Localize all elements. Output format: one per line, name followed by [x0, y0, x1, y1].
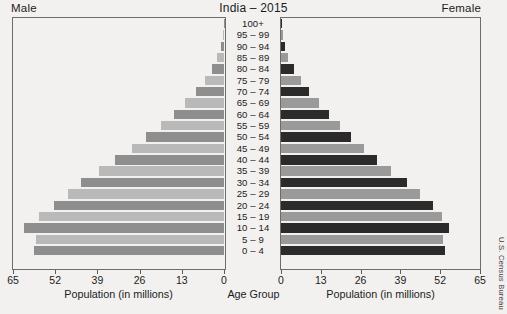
axis-tick-label: 39 [395, 274, 407, 286]
age-group-label: 0 – 4 [226, 245, 280, 256]
age-group-label: 50 – 54 [226, 131, 280, 142]
bar-row-male [13, 97, 224, 108]
bar-male [217, 53, 224, 62]
bar-male [34, 246, 224, 255]
age-group-label: 75 – 79 [226, 75, 280, 86]
bar-male [185, 98, 224, 107]
age-group-label: 80 – 84 [226, 63, 280, 74]
age-group-label: 5 – 9 [226, 234, 280, 245]
bar-row-male [13, 154, 224, 165]
bar-female [281, 87, 309, 96]
bar-row-male [13, 86, 224, 97]
bar-male [81, 178, 224, 187]
bar-row-male [13, 109, 224, 120]
bar-row-male [13, 18, 224, 29]
age-group-label: 65 – 69 [226, 97, 280, 108]
bar-male [221, 42, 224, 51]
bar-female [281, 98, 319, 107]
bar-row-female [281, 222, 480, 233]
axis-tick-label: 13 [315, 274, 327, 286]
bar-female [281, 144, 364, 153]
bar-male [174, 110, 224, 119]
bar-male [132, 144, 225, 153]
bar-row-male [13, 63, 224, 74]
bar-female [281, 64, 294, 73]
bar-row-male [13, 234, 224, 245]
bar-female [281, 235, 443, 244]
axis-tick-label: 13 [176, 274, 188, 286]
bar-row-female [281, 63, 480, 74]
bar-row-male [13, 143, 224, 154]
axis-tick-label: 0 [278, 274, 284, 286]
bar-male [146, 132, 224, 141]
bar-row-male [13, 245, 224, 256]
axis-tick-label: 39 [92, 274, 104, 286]
bar-row-female [281, 75, 480, 86]
bar-female [281, 76, 301, 85]
bar-row-female [281, 41, 480, 52]
bar-female [281, 189, 420, 198]
age-group-label: 10 – 14 [226, 222, 280, 233]
bar-female [281, 53, 288, 62]
bar-row-male [13, 131, 224, 142]
age-group-label: 85 – 89 [226, 52, 280, 63]
bar-row-male [13, 41, 224, 52]
age-group-label: 15 – 19 [226, 211, 280, 222]
bar-female [281, 155, 377, 164]
age-group-axis: 100+95 – 9990 – 9485 – 8980 – 8475 – 797… [225, 17, 281, 270]
bar-row-male [13, 211, 224, 222]
bar-row-male [13, 222, 224, 233]
bar-group-male [13, 18, 224, 269]
bar-male [99, 166, 224, 175]
bar-male [39, 212, 224, 221]
bar-row-male [13, 200, 224, 211]
age-group-label: 95 – 99 [226, 29, 280, 40]
bar-male [205, 76, 224, 85]
axis-tick-label: 52 [434, 274, 446, 286]
bar-female [281, 223, 449, 232]
bar-female [281, 201, 433, 210]
bar-female [281, 110, 329, 119]
bar-row-male [13, 177, 224, 188]
bar-row-female [281, 131, 480, 142]
bar-row-male [13, 75, 224, 86]
axis-tick-label: 65 [474, 274, 486, 286]
bar-female [281, 121, 340, 130]
bar-male [196, 87, 224, 96]
bar-male [161, 121, 224, 130]
bar-row-female [281, 86, 480, 97]
bar-row-female [281, 177, 480, 188]
bar-male [68, 189, 224, 198]
bar-row-female [281, 97, 480, 108]
bar-female [281, 178, 407, 187]
bar-row-female [281, 29, 480, 40]
bar-row-female [281, 52, 480, 63]
age-group-label: 60 – 64 [226, 109, 280, 120]
bar-group-female [281, 18, 480, 269]
bar-row-female [281, 165, 480, 176]
bar-row-female [281, 109, 480, 120]
axis-tick-label: 0 [221, 274, 227, 286]
axis-tick-label: 26 [355, 274, 367, 286]
bar-row-male [13, 188, 224, 199]
age-group-label: 35 – 39 [226, 165, 280, 176]
bar-male [36, 235, 224, 244]
bar-row-female [281, 143, 480, 154]
age-group-label: 25 – 29 [226, 188, 280, 199]
age-group-label: 40 – 44 [226, 154, 280, 165]
x-axis-title-male: Population (in millions) [13, 288, 224, 300]
age-group-label: 30 – 34 [226, 177, 280, 188]
bar-row-female [281, 18, 480, 29]
bar-row-female [281, 245, 480, 256]
age-group-label: 55 – 59 [226, 120, 280, 131]
bar-female [281, 132, 351, 141]
age-group-label: 20 – 24 [226, 200, 280, 211]
age-group-label: 100+ [226, 18, 280, 29]
bar-row-female [281, 234, 480, 245]
legend-label-female: Female [441, 2, 481, 14]
source-attribution: U.S. Census Bureau [497, 237, 506, 310]
bar-male [212, 64, 224, 73]
chart-title: India – 2015 [0, 1, 507, 15]
bar-row-female [281, 154, 480, 165]
axis-tick-label: 52 [49, 274, 61, 286]
